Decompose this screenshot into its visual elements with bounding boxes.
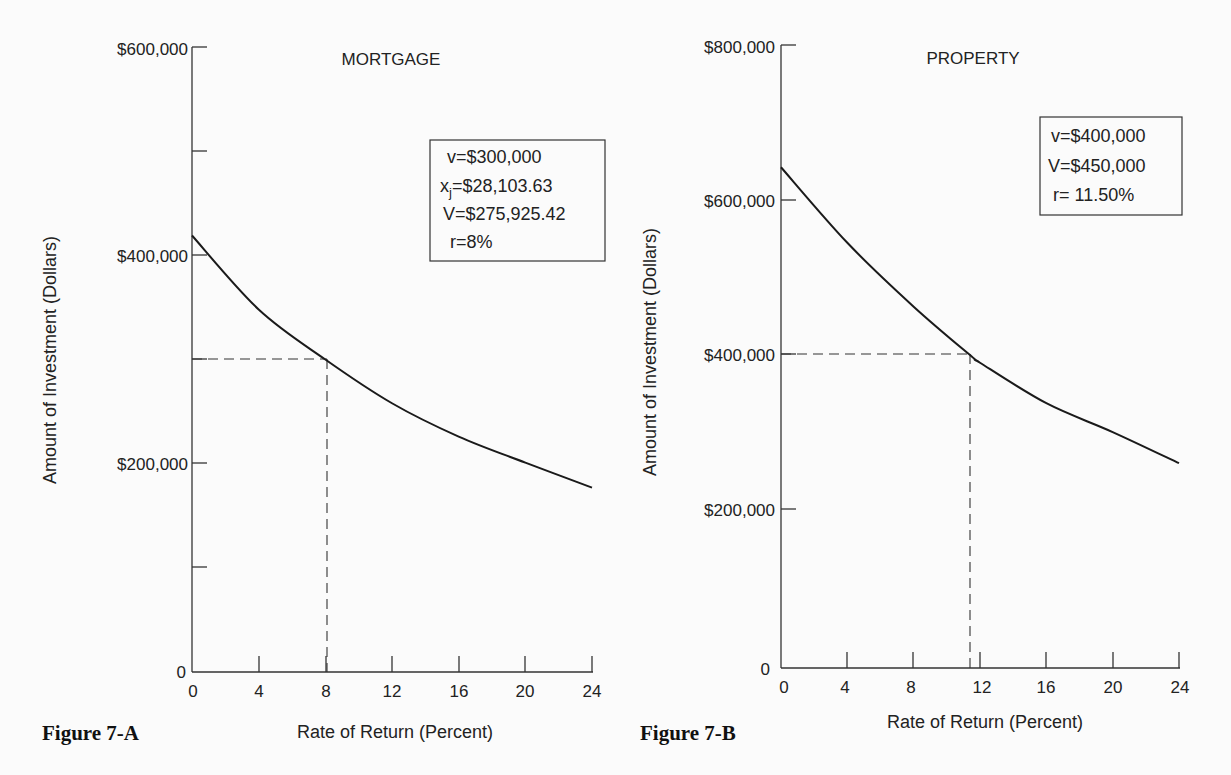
x-tick-label: 24: [583, 682, 602, 701]
chart-title: PROPERTY: [926, 49, 1019, 68]
x-tick-label: 4: [254, 682, 263, 701]
reference-dashed-lines: [192, 359, 327, 672]
x-tick-label: 8: [906, 678, 915, 697]
box-line: xj=$28,103.63: [440, 176, 553, 200]
x-tick-label: 20: [1104, 678, 1123, 697]
y-tick-label: $200,000: [704, 501, 775, 520]
box-line: V=$275,925.42: [443, 204, 566, 224]
x-tick-label: 0: [779, 678, 788, 697]
y-tick-label: 0: [761, 660, 770, 679]
annotation-box: v=$400,000 V=$450,000 r= 11.50%: [1040, 117, 1182, 215]
figure-label: Figure 7-A: [42, 721, 140, 745]
y-tick-label: 0: [177, 663, 186, 682]
figure-canvas: $600,000 $400,000 $200,000 0 0 4 8 12 16…: [0, 0, 1231, 775]
box-line: v=$300,000: [447, 147, 542, 167]
y-tick-label: $400,000: [117, 247, 188, 266]
box-line: r= 11.50%: [1053, 185, 1134, 205]
x-tick-label: 12: [383, 682, 402, 701]
chart-mortgage: $600,000 $400,000 $200,000 0 0 4 8 12 16…: [40, 40, 605, 745]
box-line: r=8%: [450, 232, 493, 252]
y-axis: [781, 45, 796, 668]
x-tick-label: 0: [188, 682, 197, 701]
chart-property: $800,000 $600,000 $400,000 $200,000 0 0 …: [640, 38, 1189, 745]
x-axis-label: Rate of Return (Percent): [297, 722, 493, 742]
x-axis-label: Rate of Return (Percent): [887, 712, 1083, 732]
x-tick-label: 8: [321, 682, 330, 701]
y-axis-label: Amount of Investment (Dollars): [40, 236, 60, 484]
reference-dashed-lines: [781, 354, 970, 668]
x-tick-label: 20: [516, 682, 535, 701]
y-tick-label: $400,000: [704, 346, 775, 365]
y-tick-label: $600,000: [704, 192, 775, 211]
chart-title: MORTGAGE: [342, 50, 441, 69]
x-tick-label: 4: [840, 678, 849, 697]
property-value-curve: [781, 167, 1179, 463]
y-tick-label: $600,000: [117, 40, 188, 59]
x-axis: [192, 656, 593, 672]
y-axis-label: Amount of Investment (Dollars): [640, 228, 660, 476]
x-axis: [781, 652, 1180, 668]
annotation-box: v=$300,000 xj=$28,103.63 V=$275,925.42 r…: [430, 140, 605, 261]
x-tick-label: 16: [450, 682, 469, 701]
box-line: v=$400,000: [1051, 126, 1146, 146]
mortgage-value-curve: [192, 236, 592, 488]
x-tick-label: 24: [1171, 678, 1190, 697]
box-line: V=$450,000: [1048, 156, 1146, 176]
x-tick-label: 16: [1037, 678, 1056, 697]
y-tick-label: $800,000: [704, 38, 775, 57]
figure-label: Figure 7-B: [640, 721, 736, 745]
x-tick-label: 12: [973, 678, 992, 697]
y-tick-label: $200,000: [117, 455, 188, 474]
